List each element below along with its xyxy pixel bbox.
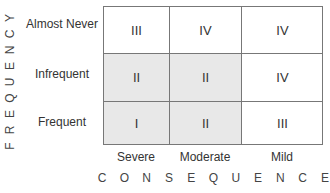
matrix-cell: II <box>170 54 242 102</box>
axis-letter: N <box>4 46 16 55</box>
cell-value: III <box>131 23 142 38</box>
cell-value: III <box>277 116 288 131</box>
cell-value: II <box>202 116 209 131</box>
axis-letter: C <box>4 30 16 39</box>
axis-letter: Y <box>4 14 16 22</box>
axis-letter: E <box>187 171 195 185</box>
matrix-cell: III <box>104 7 170 54</box>
x-axis-title: CONSEQUENCE <box>0 171 330 187</box>
column-label-mild: Mild <box>241 150 323 164</box>
matrix-cell: I <box>104 102 170 144</box>
axis-letter: E <box>254 171 262 185</box>
matrix-cell: IV <box>170 7 242 54</box>
axis-letter: S <box>165 171 173 185</box>
axis-letter: C <box>298 171 307 185</box>
axis-letter: Q <box>4 93 16 102</box>
risk-matrix-grid: III IV IV II II IV I II III <box>103 6 323 145</box>
cell-value: IV <box>276 23 288 38</box>
cell-value: IV <box>276 70 288 85</box>
y-axis-title: FREQUENCY <box>2 12 18 152</box>
cell-value: II <box>133 70 140 85</box>
axis-letter: R <box>4 126 16 135</box>
matrix-cell: IV <box>242 54 323 102</box>
axis-letter: E <box>321 171 329 185</box>
cell-value: II <box>202 70 209 85</box>
axis-letter: Q <box>209 171 218 185</box>
matrix-cell: II <box>104 54 170 102</box>
column-label-moderate: Moderate <box>169 150 241 164</box>
cell-value: IV <box>199 23 211 38</box>
axis-letter: F <box>4 142 16 149</box>
cell-value: I <box>135 116 139 131</box>
matrix-cell: III <box>242 102 323 144</box>
axis-letter: E <box>4 62 16 70</box>
axis-letter: U <box>231 171 240 185</box>
row-label-frequent: Frequent <box>24 115 100 129</box>
row-label-almost-never: Almost Never <box>24 17 100 31</box>
row-label-infrequent: Infrequent <box>24 67 100 81</box>
column-label-severe: Severe <box>103 150 169 164</box>
axis-letter: O <box>120 171 129 185</box>
axis-letter: C <box>98 171 107 185</box>
matrix-cell: IV <box>242 7 323 54</box>
axis-letter: E <box>4 110 16 118</box>
matrix-cell: II <box>170 102 242 144</box>
axis-letter: N <box>142 171 151 185</box>
axis-letter: U <box>4 78 16 87</box>
axis-letter: N <box>276 171 285 185</box>
